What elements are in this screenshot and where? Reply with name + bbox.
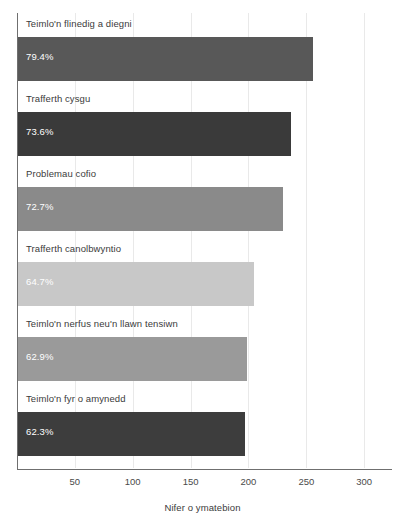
bar-group-5: Teimlo'n fyr o amynedd 62.3%	[17, 388, 392, 463]
x-tick-200: 200	[241, 476, 257, 487]
bar-category-label: Trafferth canolbwyntio	[26, 243, 121, 254]
bar-value-label: 72.7%	[26, 201, 53, 212]
bar-category-label: Trafferth cysgu	[26, 93, 90, 104]
bar-value-label: 62.9%	[26, 351, 53, 362]
bar-rect[interactable]	[17, 37, 313, 81]
bar-value-label: 79.4%	[26, 51, 53, 62]
bar-group-3: Trafferth canolbwyntio 64.7%	[17, 238, 392, 313]
bar-value-label: 64.7%	[26, 276, 53, 287]
x-axis-line	[17, 469, 392, 470]
bar-chart: Teimlo'n flinedig a diegni 79.4% Traffer…	[0, 0, 405, 530]
bar-group-1: Trafferth cysgu 73.6%	[17, 88, 392, 163]
x-tick-100: 100	[125, 476, 141, 487]
bar-group-2: Problemau cofio 72.7%	[17, 163, 392, 238]
bar-rect[interactable]	[17, 112, 291, 156]
y-axis-line	[17, 13, 18, 470]
bar-category-label: Problemau cofio	[26, 168, 96, 179]
x-tick-250: 250	[298, 476, 314, 487]
x-tick-150: 150	[183, 476, 199, 487]
bar-group-0: Teimlo'n flinedig a diegni 79.4%	[17, 13, 392, 88]
bar-rect[interactable]	[17, 187, 283, 231]
bar-value-label: 73.6%	[26, 126, 53, 137]
x-axis-title: Nifer o ymatebion	[0, 502, 405, 513]
plot-area: Teimlo'n flinedig a diegni 79.4% Traffer…	[17, 13, 392, 468]
x-tick-300: 300	[356, 476, 372, 487]
bar-category-label: Teimlo'n fyr o amynedd	[26, 393, 126, 404]
bar-group-4: Teimlo'n nerfus neu'n llawn tensiwn 62.9…	[17, 313, 392, 388]
bar-category-label: Teimlo'n flinedig a diegni	[26, 18, 132, 29]
bar-category-label: Teimlo'n nerfus neu'n llawn tensiwn	[26, 318, 178, 329]
x-tick-50: 50	[70, 476, 81, 487]
bar-value-label: 62.3%	[26, 426, 53, 437]
